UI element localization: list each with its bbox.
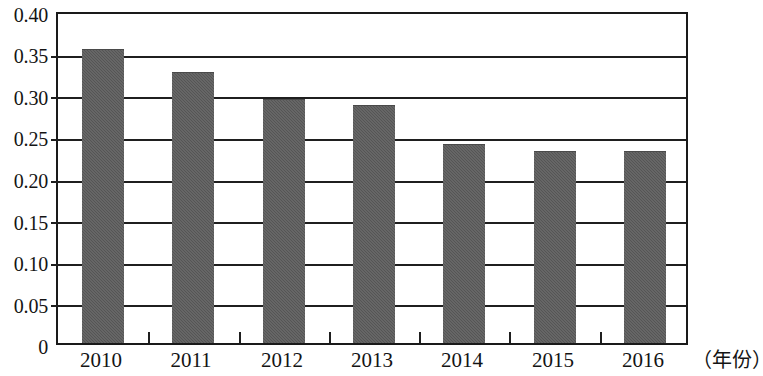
y-axis-label-030: 0.30 [0,88,48,108]
bar-2011 [172,72,214,343]
bar-2015 [534,151,576,343]
x-tick-6 [600,332,602,343]
y-axis-label-040: 0.40 [0,5,48,25]
bar-2010 [82,49,124,343]
y-tick-035 [51,56,58,58]
y-axis-label-010: 0.10 [0,254,48,274]
x-axis-label-2011: 2011 [146,350,236,371]
x-axis-label-2012: 2012 [237,350,327,371]
x-axis-title: （年份） [692,350,763,370]
y-tick-010 [51,264,58,266]
y-axis-label-020: 0.20 [0,171,48,191]
x-tick-1 [148,332,150,343]
y-axis-label-015: 0.15 [0,213,48,233]
y-tick-020 [51,181,58,183]
y-axis-label-000: 0 [0,337,48,357]
plot-area [56,12,688,345]
x-tick-4 [419,332,421,343]
x-axis-label-2010: 2010 [56,350,146,371]
y-tick-025 [51,139,58,141]
x-axis-label-2013: 2013 [327,350,417,371]
bar-2012 [263,99,305,343]
gridline-035 [58,56,686,58]
bar-2016 [624,151,666,343]
x-tick-5 [509,332,511,343]
bar-2014 [443,144,485,343]
gridline-030 [58,97,686,99]
x-axis-label-2015: 2015 [508,350,598,371]
x-axis-label-2016: 2016 [598,350,688,371]
y-tick-005 [51,305,58,307]
x-tick-3 [329,332,331,343]
y-tick-030 [51,97,58,99]
y-axis-label-025: 0.25 [0,129,48,149]
y-axis-label-035: 0.35 [0,46,48,66]
y-axis-label-005: 0.05 [0,296,48,316]
bar-2013 [353,105,395,343]
y-tick-015 [51,222,58,224]
x-axis-label-2014: 2014 [417,350,507,371]
x-tick-2 [239,332,241,343]
